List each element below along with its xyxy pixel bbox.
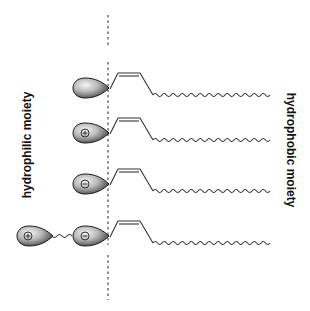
wavy-linker-icon — [52, 235, 72, 238]
anionic-headgroup-icon — [73, 226, 109, 246]
hydrophobic-tail-icon — [110, 221, 270, 245]
hydrophobic-tail-icon — [110, 118, 270, 142]
neutral-headgroup-icon — [73, 78, 109, 98]
molecule-cationic — [73, 118, 270, 143]
hydrophilic-label: hydrophilic moiety — [20, 92, 34, 199]
cationic-headgroup-icon — [73, 123, 109, 143]
hydrophobic-tail-icon — [110, 169, 270, 193]
hydrophobic-label: hydrophobic moiety — [284, 93, 298, 208]
anionic-headgroup-icon — [73, 174, 109, 194]
cationic-headgroup-icon — [17, 226, 53, 246]
molecule-zwitterionic — [17, 221, 270, 246]
molecule-neutral — [73, 73, 270, 98]
hydrophobic-tail-icon — [110, 73, 270, 97]
surfactant-diagram — [0, 0, 310, 311]
molecule-anionic — [73, 169, 270, 194]
